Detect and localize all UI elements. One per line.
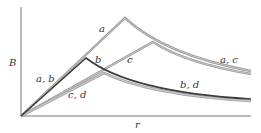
label-b-d: b, d [180,79,199,90]
curve-c [21,42,251,116]
label-b: b [95,54,101,65]
label-c: c [127,54,133,65]
y-axis-label: B [8,57,16,68]
label-a-b: a, b [36,73,55,84]
magnetic-field-diagram: B r a a, b b c c, d b, d a, c [0,0,261,133]
label-c-d: c, d [68,89,86,100]
curve-d [21,73,251,116]
label-a-c: a, c [220,54,238,65]
label-a: a [99,23,105,34]
x-axis-label: r [135,119,141,130]
